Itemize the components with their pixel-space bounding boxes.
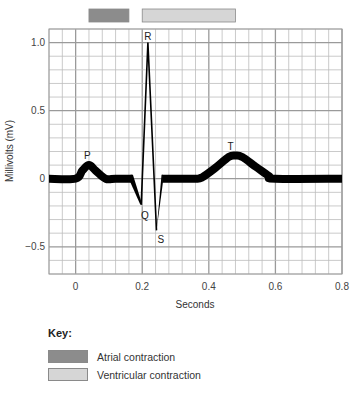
x-tick-label: 0.2 (135, 281, 149, 292)
wave-label-s: S (158, 234, 165, 245)
wave-label-q: Q (141, 210, 149, 221)
y-tick-label: 1.0 (31, 37, 45, 48)
legend-label-ventricular: Ventricular contraction (97, 369, 201, 381)
legend-title: Key: (48, 327, 72, 339)
st-taper-trace (157, 175, 163, 231)
legend-item-atrial: Atrial contraction (48, 350, 175, 363)
phase-bars (89, 9, 236, 22)
legend-label-atrial: Atrial contraction (97, 351, 175, 363)
qrs-complex-trace (141, 43, 156, 231)
y-tick-label: −0.5 (25, 241, 45, 252)
grid (49, 29, 342, 274)
ventricular-contraction-bar (142, 9, 235, 22)
y-axis-label: Millivolts (mV) (4, 120, 15, 182)
x-tick-label: 0.4 (202, 281, 216, 292)
x-tick-label: 0 (73, 281, 79, 292)
x-tick-label: 0.8 (335, 281, 349, 292)
atrial-contraction-bar (89, 9, 129, 22)
legend-item-ventricular: Ventricular contraction (48, 368, 201, 381)
tick-labels: 00.20.40.60.81.00.50−0.5 (25, 37, 349, 292)
x-axis-label: Seconds (176, 299, 215, 310)
wave-label-t: T (227, 141, 233, 152)
wave-label-p: P (84, 150, 91, 161)
baseline-and-p-wave-trace (49, 165, 132, 179)
legend-swatch-ventricular (48, 368, 88, 381)
x-tick-label: 0.6 (268, 281, 282, 292)
wave-label-r: R (144, 31, 151, 42)
y-tick-label: 0.5 (31, 105, 45, 116)
y-tick-label: 0 (39, 173, 45, 184)
legend-swatch-atrial (48, 350, 88, 363)
